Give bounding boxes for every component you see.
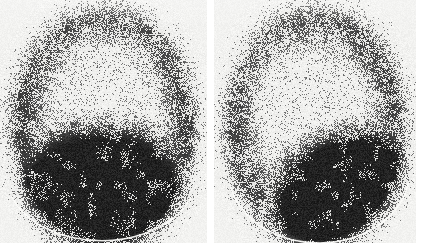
scintigram-panel-right [214,0,416,243]
scintigram-figure [0,0,429,243]
scintigram-image-right [214,0,416,243]
figure-right-margin [416,0,429,243]
scintigram-image-left [0,0,207,243]
scintigram-panel-left [0,0,207,243]
panel-divider [207,0,214,243]
